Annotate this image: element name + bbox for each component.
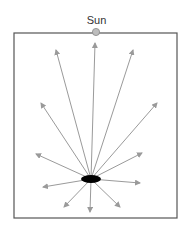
arrow-right-up xyxy=(91,103,157,179)
arrow-up xyxy=(91,43,95,179)
light-scattering-diagram xyxy=(0,0,186,234)
scattering-object xyxy=(81,175,101,183)
arrow-up-right xyxy=(91,50,133,179)
arrow-down xyxy=(90,179,91,212)
arrow-up-left xyxy=(56,50,91,179)
sun-icon xyxy=(92,28,99,35)
arrow-down-right xyxy=(91,179,120,207)
scattered-light-arrows xyxy=(36,43,157,212)
diagram-frame xyxy=(14,33,177,218)
